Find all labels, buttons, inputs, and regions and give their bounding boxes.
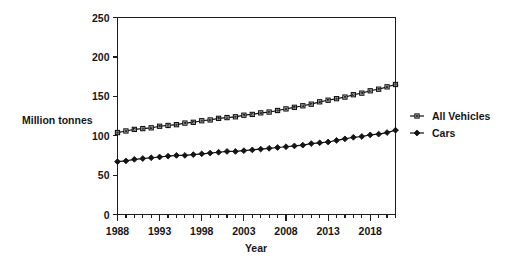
data-point-marker [123, 158, 129, 164]
data-point-marker-core [117, 132, 119, 134]
data-point-marker [393, 127, 399, 133]
data-point-marker [216, 149, 222, 155]
data-point-marker [266, 145, 272, 151]
x-tick-label: 2003 [232, 225, 256, 237]
data-point-marker [165, 153, 171, 159]
data-point-marker [174, 153, 180, 159]
legend-entry[interactable]: Cars [410, 127, 456, 139]
data-point-marker-core [378, 88, 380, 90]
x-tick-label: 1988 [106, 225, 130, 237]
data-point-marker [207, 150, 213, 156]
chart-figure: 050100150200250 198819931998200320082013… [0, 0, 516, 269]
x-axis-title: Year [245, 242, 267, 254]
x-tick-label: 2008 [274, 225, 298, 237]
data-point-marker-core [209, 119, 211, 121]
data-point-marker [182, 153, 188, 159]
data-point-marker-core [176, 124, 178, 126]
data-point-marker [199, 151, 205, 157]
series-cars [115, 127, 399, 164]
legend-label: Cars [432, 127, 456, 139]
data-point-marker [334, 138, 340, 144]
filled-diamond-icon [414, 130, 420, 136]
data-point-marker [115, 159, 121, 165]
x-axis-ticks: 1988199319982003200820132018 [106, 215, 396, 237]
data-point-marker [131, 156, 137, 162]
data-point-marker [283, 144, 289, 150]
data-point-marker [241, 148, 247, 154]
data-point-marker-core [226, 117, 228, 119]
data-point-marker [359, 134, 365, 140]
y-axis-title: Million tonnes [22, 114, 93, 126]
x-tick-label: 2018 [359, 225, 383, 237]
data-point-marker-core [260, 112, 262, 114]
data-point-marker [367, 132, 373, 138]
data-point-marker-core [125, 130, 127, 132]
data-point-marker-core [268, 111, 270, 113]
data-point-marker-core [353, 94, 355, 96]
series-all-vehicles [115, 82, 397, 134]
data-point-marker [249, 147, 255, 153]
data-point-marker [157, 154, 163, 160]
x-tick-label: 2013 [316, 225, 340, 237]
x-tick-label: 1993 [148, 225, 172, 237]
data-series-layer [115, 82, 399, 164]
data-point-marker-core [361, 92, 363, 94]
x-tick-label: 1998 [190, 225, 214, 237]
data-point-marker [233, 149, 239, 155]
y-tick-label: 0 [104, 209, 110, 221]
data-point-marker [317, 140, 323, 146]
data-point-marker [414, 130, 420, 136]
data-point-marker [325, 139, 331, 145]
data-point-marker [148, 155, 154, 161]
data-point-marker-core [201, 120, 203, 122]
data-point-marker-core [193, 122, 195, 124]
data-point-marker-core [167, 125, 169, 127]
data-point-marker [342, 136, 348, 142]
line-chart: 050100150200250 198819931998200320082013… [0, 0, 516, 269]
data-point-marker-core [142, 128, 144, 130]
y-tick-label: 200 [92, 51, 110, 63]
legend-label: All Vehicles [432, 110, 491, 122]
data-point-marker-core [159, 125, 161, 127]
data-point-marker-core [251, 114, 253, 116]
data-point-marker [190, 152, 196, 158]
data-point-marker-core [218, 118, 220, 120]
data-point-marker [300, 142, 306, 148]
y-axis-ticks: 050100150200250 [92, 12, 118, 221]
data-point-marker-core [235, 116, 237, 118]
data-point-marker-core [310, 103, 312, 105]
data-point-marker-core [319, 101, 321, 103]
data-point-marker-core [277, 110, 279, 112]
data-point-marker-core [395, 84, 397, 86]
legend-entry[interactable]: All Vehicles [410, 110, 491, 122]
data-point-marker-core [285, 108, 287, 110]
y-tick-label: 250 [92, 12, 110, 24]
y-tick-label: 150 [92, 90, 110, 102]
data-point-marker-core [134, 129, 136, 131]
plot-frame [118, 18, 396, 215]
data-point-marker-core [294, 107, 296, 109]
data-point-marker-core [336, 98, 338, 100]
data-point-marker [376, 131, 382, 137]
data-point-marker-core [302, 105, 304, 107]
data-point-marker [350, 134, 356, 140]
data-point-marker [140, 156, 146, 162]
data-point-marker-core [184, 122, 186, 124]
data-point-marker-core [150, 127, 152, 129]
chart-legend: All VehiclesCars [410, 110, 491, 139]
data-point-marker-core [369, 90, 371, 92]
open-square-icon [415, 114, 419, 118]
data-point-marker-core [416, 115, 418, 117]
data-point-marker [308, 141, 314, 147]
y-tick-label: 100 [92, 130, 110, 142]
data-point-marker-core [243, 114, 245, 116]
data-point-marker [275, 145, 281, 151]
data-point-marker [384, 130, 390, 136]
y-tick-label: 50 [98, 169, 110, 181]
data-point-marker [258, 146, 264, 152]
data-point-marker [292, 143, 298, 149]
data-point-marker-core [327, 99, 329, 101]
data-point-marker-core [386, 86, 388, 88]
data-point-marker [224, 149, 230, 155]
data-point-marker-core [344, 96, 346, 98]
